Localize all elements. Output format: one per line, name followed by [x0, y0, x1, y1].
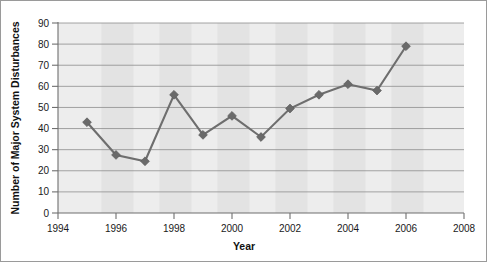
y-tick-label: 70 — [38, 60, 50, 71]
x-tick-label: 2000 — [221, 223, 244, 234]
x-tick-label: 1994 — [47, 223, 70, 234]
y-tick-label: 90 — [38, 18, 50, 29]
y-tick-label: 80 — [38, 39, 50, 50]
x-tick-label: 2004 — [337, 223, 360, 234]
y-tick-label: 20 — [38, 165, 50, 176]
x-tick-label: 1996 — [105, 223, 128, 234]
y-tick-label: 0 — [43, 208, 49, 219]
y-tick-label: 60 — [38, 81, 50, 92]
background-band — [334, 23, 366, 213]
x-axis-ticks: 19941996199820002002200420062008 — [47, 213, 476, 234]
y-axis-ticks: 0102030405060708090 — [38, 18, 58, 219]
y-tick-label: 40 — [38, 123, 50, 134]
background-band — [392, 23, 424, 213]
x-axis-title: Year — [233, 240, 255, 252]
x-tick-label: 2006 — [395, 223, 418, 234]
x-tick-label: 2002 — [279, 223, 302, 234]
line-chart: 0102030405060708090 19941996199820002002… — [1, 1, 487, 262]
x-tick-label: 1998 — [163, 223, 186, 234]
chart-figure: 0102030405060708090 19941996199820002002… — [0, 0, 487, 262]
y-tick-label: 10 — [38, 186, 50, 197]
y-axis-title: Number of Major System Disturbances — [9, 21, 21, 214]
background-band — [102, 23, 134, 213]
x-tick-label: 2008 — [453, 223, 476, 234]
y-tick-label: 30 — [38, 144, 50, 155]
y-tick-label: 50 — [38, 102, 50, 113]
